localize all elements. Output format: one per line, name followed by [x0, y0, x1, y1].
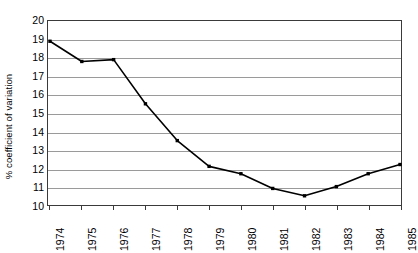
y-axis-tick-labels: 1011121314151617181920 — [18, 0, 44, 253]
data-point-marker — [335, 185, 338, 188]
x-axis-tick-label: 1978 — [182, 228, 194, 251]
y-axis-tick-label: 18 — [18, 51, 44, 63]
y-axis-title: % coefficient of variation — [0, 0, 16, 253]
data-point-marker — [48, 40, 51, 43]
x-axis-tick-label: 1980 — [246, 228, 258, 251]
y-axis-tick-label: 15 — [18, 107, 44, 119]
series-line — [50, 41, 400, 196]
x-axis-tick-label: 1977 — [150, 228, 162, 251]
data-point-marker — [303, 194, 306, 197]
y-axis-tick-label: 20 — [18, 14, 44, 26]
y-axis-tick-label: 16 — [18, 88, 44, 100]
x-axis-tick-label: 1983 — [342, 228, 354, 251]
data-point-marker — [398, 163, 401, 166]
x-axis-tick-label: 1981 — [278, 228, 290, 251]
y-axis-tick-label: 14 — [18, 126, 44, 138]
x-axis-tick-label: 1984 — [374, 228, 386, 251]
data-point-marker — [239, 172, 242, 175]
x-axis-tick-label: 1982 — [310, 228, 322, 251]
y-axis-tick-label: 10 — [18, 200, 44, 212]
data-point-marker — [271, 187, 274, 190]
data-point-marker — [366, 172, 369, 175]
data-point-marker — [144, 102, 147, 105]
y-axis-tick-label: 19 — [18, 33, 44, 45]
y-axis-tick-label: 17 — [18, 70, 44, 82]
data-point-marker — [80, 60, 83, 63]
y-axis-tick-label: 12 — [18, 163, 44, 175]
data-point-marker — [176, 139, 179, 142]
y-axis-tick-label: 11 — [18, 181, 44, 193]
data-point-marker — [207, 165, 210, 168]
x-axis-tick-label: 1985 — [406, 228, 418, 251]
x-axis-tick-labels: 1974197519761977197819791980198119821983… — [47, 210, 402, 253]
x-axis-tick-label: 1976 — [118, 228, 130, 251]
plot-area — [47, 20, 402, 206]
x-axis-tick-label: 1974 — [54, 228, 66, 251]
data-series-line — [48, 21, 401, 205]
x-axis-tick-label: 1975 — [86, 228, 98, 251]
data-point-marker — [112, 58, 115, 61]
y-axis-tick-label: 13 — [18, 144, 44, 156]
x-axis-tick-label: 1979 — [214, 228, 226, 251]
